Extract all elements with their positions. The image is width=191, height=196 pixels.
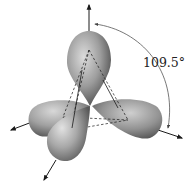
sp3-orbital-diagram: 109.5° bbox=[0, 0, 191, 196]
diagram-canvas: 109.5° bbox=[0, 0, 191, 196]
right-axis-arrow bbox=[158, 130, 182, 138]
left-axis-arrow bbox=[11, 122, 32, 130]
top-lobe bbox=[67, 31, 111, 106]
front-axis-arrow bbox=[44, 160, 56, 180]
angle-label: 109.5° bbox=[143, 55, 185, 70]
